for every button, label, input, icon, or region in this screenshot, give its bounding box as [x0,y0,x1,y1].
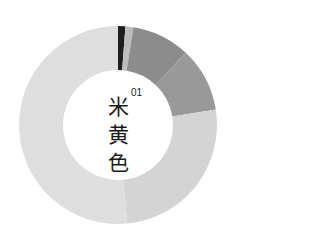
title-char-1: 米 [103,93,133,121]
index-number: 01 [131,87,142,98]
donut-slice-5 [123,110,217,224]
center-title: 米 黄 色 [103,93,133,177]
title-char-2: 黄 [103,121,133,149]
title-char-3: 色 [103,149,133,177]
